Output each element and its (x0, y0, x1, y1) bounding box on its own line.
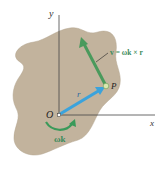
y-axis-label: y (48, 8, 54, 19)
x-axis-label: x (149, 118, 154, 128)
rigid-body-shape (13, 28, 120, 155)
angular-velocity-label: ωk (54, 134, 66, 144)
point-p-marker (103, 83, 109, 89)
kinematics-diagram: y x O P r v = ωk × r ωk (0, 0, 166, 171)
point-p-label: P (110, 81, 117, 91)
origin-label: O (46, 109, 53, 120)
velocity-equation-label: v = ωk × r (110, 48, 143, 57)
diagram-canvas: y x O P r v = ωk × r ωk (0, 0, 166, 171)
origin-marker (58, 114, 61, 117)
position-vector-label: r (77, 89, 81, 99)
